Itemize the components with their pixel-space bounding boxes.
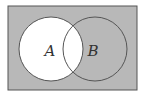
venn-diagram: A B <box>0 0 144 97</box>
set-b-label: B <box>86 42 98 60</box>
set-a-label: A <box>43 42 56 60</box>
